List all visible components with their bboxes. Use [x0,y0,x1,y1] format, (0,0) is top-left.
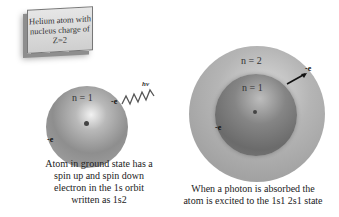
electron-top-label: -e [111,97,117,106]
electron-bottom-label: -e [47,135,53,144]
ground-caption-line-3: electron in the 1s orbit [20,182,178,194]
excited-nucleus-dot [253,110,257,114]
helium-label-box: Helium atom with nucleus charge of Z=2 [27,6,93,53]
ground-caption-line-1: Atom in ground state has a [20,158,178,170]
photon-wave-icon [120,82,160,108]
nucleus-dot [84,121,89,126]
excited-electron-label: -e [305,64,311,73]
excited-caption-line-1: When a photon is absorbed the [168,183,338,195]
excited-caption-line-2: atom is excited to the 1s1 2s1 state [168,195,338,207]
inner-shell-label: n = 1 [242,82,263,93]
photon-label: hv [142,80,149,88]
outer-shell-label: n = 2 [241,55,262,66]
ground-shell-label: n = 1 [72,92,93,103]
ground-state-caption: Atom in ground state has a spin up and s… [20,158,178,206]
ground-caption-line-4: written as 1s2 [20,194,178,206]
excited-state-caption: When a photon is absorbed the atom is ex… [168,183,338,207]
ground-caption-line-2: spin up and spin down [20,170,178,182]
inner-electron-label: -e [215,123,221,132]
